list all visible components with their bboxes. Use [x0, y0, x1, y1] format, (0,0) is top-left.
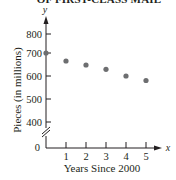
x-axis-name: x: [165, 142, 171, 153]
data-point: [143, 78, 148, 83]
x-axis-arrow-icon: [154, 146, 162, 151]
x-tick-label: 5: [143, 151, 148, 162]
y-tick-label: 500: [26, 94, 42, 105]
y-tick-label: 600: [26, 71, 42, 82]
x-tick-label: 2: [83, 151, 88, 162]
origin-label: 0: [35, 142, 40, 153]
chart-plot: 400 500 600 700 800 0 1 2 3 4 5 y x: [0, 0, 176, 180]
data-point: [63, 58, 68, 63]
data-points: [43, 50, 148, 83]
data-point: [103, 67, 108, 72]
data-point: [123, 73, 128, 78]
data-point: [83, 62, 88, 67]
x-axis-label: Years Since 2000: [46, 162, 158, 174]
axis-break-icon: [42, 127, 50, 137]
y-ticks: [46, 34, 51, 122]
x-tick-label: 3: [103, 151, 108, 162]
x-tick-label: 4: [123, 151, 129, 162]
y-axis-label: Pieces (in millions): [11, 35, 23, 145]
x-tick-label: 1: [63, 151, 68, 162]
y-axis-arrow-icon: [44, 16, 49, 24]
x-ticks: [66, 142, 146, 148]
y-tick-label: 800: [26, 29, 42, 40]
y-tick-label: 400: [26, 117, 42, 128]
y-axis-name: y: [42, 4, 48, 15]
data-point: [43, 50, 48, 55]
y-tick-label: 700: [26, 48, 42, 59]
